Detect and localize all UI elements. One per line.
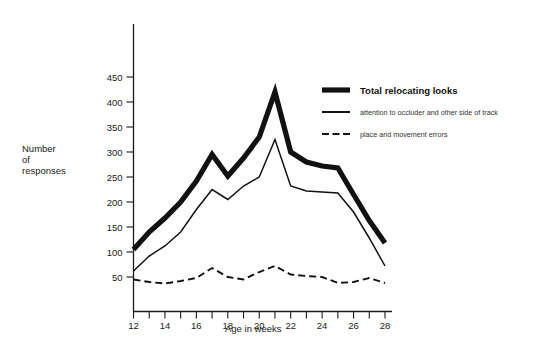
- y-axis-title-line-3: responses: [22, 165, 66, 176]
- series-place-and-movement-errors: [134, 266, 386, 284]
- y-tick-label-100: 100: [107, 247, 123, 258]
- y-tick-label-400: 400: [107, 97, 123, 108]
- x-tick-label-16: 16: [191, 320, 202, 331]
- x-tick-label-28: 28: [380, 320, 391, 331]
- plot-area: 50100150200250300350400450 1214161820222…: [107, 24, 392, 331]
- legend: Total relocating looks attention to occl…: [322, 85, 498, 139]
- x-axis-ticks: [134, 312, 386, 319]
- x-tick-label-12: 12: [128, 320, 139, 331]
- y-tick-label-250: 250: [107, 172, 123, 183]
- x-tick-label-24: 24: [317, 320, 328, 331]
- y-tick-label-350: 350: [107, 122, 123, 133]
- legend-label-total-relocating-looks: Total relocating looks: [360, 85, 457, 96]
- x-axis-title: Age in weeks: [225, 323, 282, 334]
- x-tick-label-26: 26: [348, 320, 359, 331]
- y-axis-tick-labels: 50100150200250300350400450: [107, 72, 123, 283]
- y-tick-label-450: 450: [107, 72, 123, 83]
- series-attention-to-occluder: [134, 140, 386, 272]
- x-tick-label-22: 22: [285, 320, 296, 331]
- series-total-relocating-looks: [134, 92, 386, 250]
- y-tick-label-150: 150: [107, 222, 123, 233]
- y-axis-title-line-1: Number: [22, 143, 56, 154]
- y-tick-label-200: 200: [107, 197, 123, 208]
- x-tick-label-14: 14: [160, 320, 171, 331]
- y-axis-title: Number of responses: [22, 143, 66, 176]
- chart-figure: 50100150200250300350400450 1214161820222…: [0, 0, 558, 346]
- legend-label-attention-to-occluder: attention to occluder and other side of …: [360, 108, 498, 117]
- y-axis-title-line-2: of: [22, 154, 30, 165]
- y-tick-label-50: 50: [112, 272, 123, 283]
- y-tick-label-300: 300: [107, 147, 123, 158]
- legend-label-place-and-movement-errors: place and movement errors: [360, 130, 448, 139]
